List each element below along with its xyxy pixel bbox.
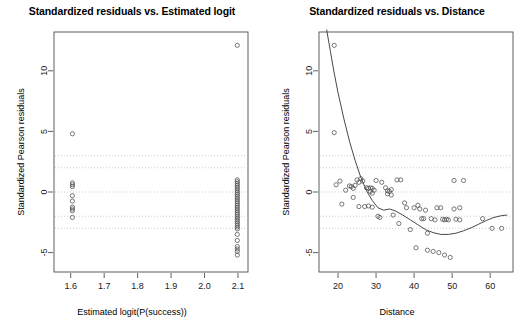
data-point (452, 207, 456, 211)
y-axis-tick-label: 10 (39, 66, 49, 76)
data-point (391, 213, 395, 217)
data-point (414, 246, 418, 250)
data-point (431, 249, 435, 253)
data-point (235, 238, 239, 242)
data-point (389, 193, 393, 197)
data-point (344, 188, 348, 192)
data-point (412, 206, 416, 210)
y-axis-tick-label: -5 (39, 249, 49, 257)
data-point (70, 194, 74, 198)
data-point (458, 206, 462, 210)
x-axis-tick-label: 50 (447, 281, 457, 291)
x-axis-tick-label: 60 (485, 281, 495, 291)
plot-box (54, 32, 248, 272)
data-point (338, 179, 342, 183)
data-point (448, 255, 452, 259)
x-axis-tick-label: 1.7 (98, 281, 111, 291)
data-point (452, 178, 456, 182)
figure-canvas: Standardized residuals vs. Estimated log… (0, 0, 529, 331)
x-axis-tick-label: 1.8 (131, 281, 144, 291)
plot-box (319, 32, 513, 272)
data-point (380, 180, 384, 184)
data-point (235, 43, 239, 47)
plot-panel-left: Standardized residuals vs. Estimated log… (0, 0, 264, 331)
data-point (442, 253, 446, 257)
data-point (402, 201, 406, 205)
data-point (70, 132, 74, 136)
data-point (332, 131, 336, 135)
data-point (370, 205, 374, 209)
data-point (404, 206, 408, 210)
data-point (437, 251, 441, 255)
y-axis-tick-label: 10 (304, 66, 314, 76)
data-point (332, 43, 336, 47)
data-point (70, 215, 74, 219)
data-point (433, 218, 437, 222)
scatter-plot-left: 1.61.71.81.92.02.1-50510 (0, 0, 264, 331)
data-point (334, 183, 338, 187)
data-point (397, 221, 401, 225)
y-axis-tick-label: 0 (39, 189, 49, 194)
data-point (418, 207, 422, 211)
data-point (357, 204, 361, 208)
data-point (70, 199, 74, 203)
scatter-plot-right: 2030405060-50510 (265, 0, 529, 331)
x-axis-tick-label: 20 (333, 281, 343, 291)
x-axis-tick-label: 2.1 (232, 281, 245, 291)
data-point (235, 232, 239, 236)
y-axis-tick-label: 5 (304, 129, 314, 134)
y-axis-tick-label: 5 (39, 129, 49, 134)
data-point (425, 231, 429, 235)
x-axis-tick-label: 1.6 (64, 281, 77, 291)
x-axis-tick-label: 1.9 (165, 281, 178, 291)
data-point (490, 226, 494, 230)
x-axis-tick-label: 40 (409, 281, 419, 291)
data-point (351, 195, 355, 199)
data-point (425, 248, 429, 252)
data-point (374, 178, 378, 182)
x-axis-tick-label: 30 (371, 281, 381, 291)
x-axis-tick-label: 2.0 (198, 281, 211, 291)
data-point (461, 178, 465, 182)
data-point (340, 202, 344, 206)
data-point (480, 217, 484, 221)
data-point (423, 208, 427, 212)
y-axis-tick-label: 0 (304, 189, 314, 194)
plot-panel-right: Standardized residuals vs. Distance Stan… (265, 0, 529, 331)
y-axis-tick-label: -5 (304, 249, 314, 257)
